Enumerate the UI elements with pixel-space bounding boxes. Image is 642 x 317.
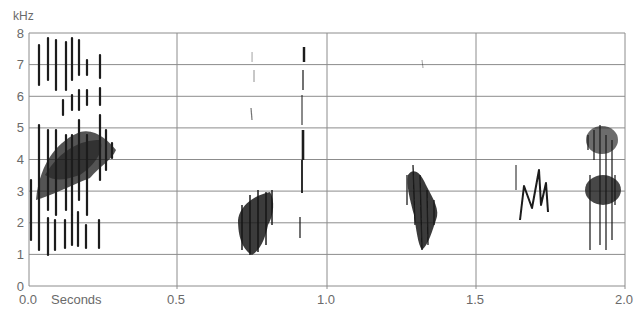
svg-text:2.0: 2.0 (615, 292, 633, 307)
segment-noisy-note (238, 52, 273, 255)
x-axis-ticks: 0.0 0.5 1.0 1.5 2.0 (19, 292, 633, 307)
svg-text:6: 6 (17, 89, 24, 104)
svg-text:3: 3 (17, 184, 24, 199)
svg-text:1.0: 1.0 (317, 292, 335, 307)
grid (29, 33, 625, 289)
x-axis-label: Seconds (51, 292, 102, 307)
svg-text:7: 7 (17, 57, 24, 72)
svg-text:4: 4 (17, 152, 24, 167)
segment-descending-note (407, 60, 437, 250)
segment-click (300, 47, 304, 238)
svg-text:5: 5 (17, 120, 24, 135)
segment-harmonic-buzz (585, 125, 621, 250)
svg-text:8: 8 (17, 26, 24, 41)
segment-zigzag-note (516, 165, 548, 220)
svg-text:2: 2 (17, 215, 24, 230)
svg-text:0.5: 0.5 (167, 292, 185, 307)
svg-text:0.0: 0.0 (19, 292, 37, 307)
svg-text:1.5: 1.5 (466, 292, 484, 307)
spectrogram-chart: kHz 8 7 6 5 4 3 2 1 0 0.0 0.5 1.0 1.5 2.… (0, 0, 642, 317)
y-axis-ticks: 8 7 6 5 4 3 2 1 0 (17, 26, 24, 294)
y-axis-unit-label: kHz (13, 9, 34, 23)
svg-text:1: 1 (17, 247, 24, 262)
